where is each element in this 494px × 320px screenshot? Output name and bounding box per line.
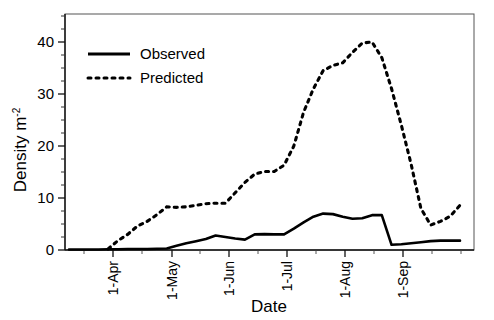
legend-label-predicted: Predicted [140,69,203,86]
x-tick-label: 1-Sep [395,261,411,299]
density-forecast-chart: 40 30 20 10 0 Density m-2 [0,0,494,320]
y-tick-label: 10 [37,189,54,206]
legend: Observed Predicted [88,45,205,86]
y-tick-label: 30 [37,85,54,102]
plot-frame [65,14,474,250]
y-tick-label: 40 [37,33,54,50]
x-tick-label: 1-Aug [337,261,353,298]
y-axis-title-main: Density m [11,117,30,193]
y-tick-label: 20 [37,137,54,154]
x-tick-label: 1-Apr [105,261,121,296]
y-tick-label: 0 [46,241,54,258]
y-tick-labels: 40 30 20 10 0 [37,33,54,258]
x-tick-label: 1-May [164,261,180,300]
chart-svg: 40 30 20 10 0 Density m-2 [0,0,494,320]
x-tick-label: 1-Jul [279,261,295,291]
series-line-observed [69,214,460,250]
svg-text:Density m-2: Density m-2 [11,107,30,192]
y-axis-major-ticks [58,42,65,250]
x-tick-label: 1-Jun [221,261,237,296]
x-tick-labels: 1-Apr 1-May 1-Jun 1-Jul 1-Aug 1-Sep [105,261,411,300]
x-axis-title: Date [251,297,287,316]
series-layer [69,42,460,249]
legend-label-observed: Observed [140,45,205,62]
y-axis-title-exponent: -2 [11,107,22,116]
y-axis-title: Density m-2 [11,107,30,192]
cut-off-title [80,0,420,7]
